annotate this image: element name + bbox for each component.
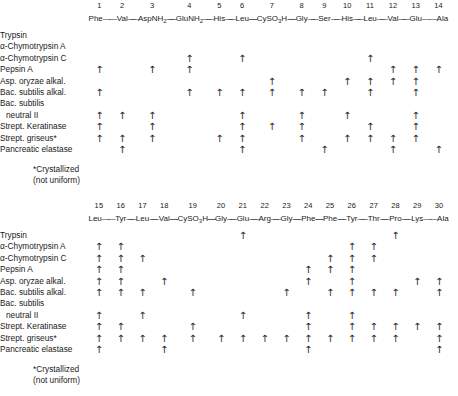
residue-label: —Glu— xyxy=(402,12,429,25)
cleavage-arrow: ↑ xyxy=(389,76,397,87)
enzyme-row: α-Chymotrypsin A↑↑↑↑ xyxy=(0,241,458,252)
residue-number: 20 xyxy=(217,200,226,212)
enzyme-row: Pancreatic elastase↑↑↑↑ xyxy=(0,344,458,355)
cleavage-arrow: ↑ xyxy=(326,333,334,344)
residue-label: Leu— xyxy=(88,212,109,225)
cleavage-arrow: ↑ xyxy=(348,321,356,332)
residue-number: 3 xyxy=(150,0,154,12)
sequence-panel-top: 1234567891011121314 Phe——Val——AspNH2——Gl… xyxy=(0,0,458,155)
enzyme-label: Pancreatic elastase xyxy=(0,344,72,355)
residue-sequence-row-top: Phe——Val——AspNH2——GluNH2——His——Leu——CySO… xyxy=(88,12,450,25)
cleavage-arrow-layer: ↑↑↑↑↑↑↑ xyxy=(88,110,450,121)
cleavage-arrow: ↑ xyxy=(412,121,420,132)
cleavage-arrow: ↑ xyxy=(260,333,268,344)
footnote-crystallized-top: *Crystallized xyxy=(33,164,79,175)
cleavage-arrow: ↑ xyxy=(297,87,305,98)
residue-number: 11 xyxy=(366,0,374,12)
cleavage-arrow: ↑ xyxy=(435,344,443,355)
cleavage-arrow: ↑ xyxy=(95,287,103,298)
cleavage-arrow: ↑ xyxy=(366,133,374,144)
residue-number: 4 xyxy=(187,0,191,12)
cleavage-arrow-layer: ↑↑↑↑↑ xyxy=(88,76,450,87)
residue-number: 29 xyxy=(413,200,422,212)
cleavage-arrow: ↑ xyxy=(391,287,399,298)
cleavage-arrow: ↑ xyxy=(304,276,312,287)
cleavage-arrow-layer: ↑↑↑↑↑ xyxy=(88,144,450,155)
residue-number: 7 xyxy=(270,0,274,12)
cleavage-arrow-layer xyxy=(88,98,450,109)
cleavage-arrow: ↑ xyxy=(348,310,356,321)
residue-number: 16 xyxy=(116,200,125,212)
residue-number-row-bottom: 15161718192021222324252627282930 xyxy=(88,200,450,212)
cleavage-arrow: ↑ xyxy=(435,333,443,344)
cleavage-arrow: ↑ xyxy=(304,344,312,355)
cleavage-arrow: ↑ xyxy=(138,287,146,298)
cleavage-arrow: ↑ xyxy=(297,121,305,132)
cleavage-arrow: ↑ xyxy=(95,276,103,287)
residue-number: 14 xyxy=(434,0,443,12)
cleavage-arrow-layer: ↑↑↑↑↑↑↑↑↑ xyxy=(88,321,450,332)
enzyme-label: Strept. griseus* xyxy=(0,333,57,344)
cleavage-arrow: ↑ xyxy=(160,333,168,344)
cleavage-arrow: ↑ xyxy=(343,76,351,87)
enzyme-row: neutral II↑↑↑↑↑↑↑ xyxy=(0,110,458,121)
cleavage-arrow: ↑ xyxy=(343,110,351,121)
cleavage-arrow: ↑ xyxy=(366,53,374,64)
enzyme-label: Strept. Keratinase xyxy=(0,321,66,332)
cleavage-arrow: ↑ xyxy=(148,64,156,75)
enzyme-rows-bottom: Trypsin↑↑α-Chymotrypsin A↑↑↑↑α-Chymotryp… xyxy=(0,230,458,355)
enzyme-row: Bac. subtilis alkal.↑↑↑↑↑↑↑↑↑↑ xyxy=(0,287,458,298)
cleavage-arrow: ↑ xyxy=(95,333,103,344)
enzyme-row: α-Chymotrypsin C↑↑↑↑↑↑ xyxy=(0,253,458,264)
cleavage-arrow-layer: ↑↑↑↑↑↑ xyxy=(88,253,450,264)
enzyme-row: Pancreatic elastase↑↑↑↑↑ xyxy=(0,144,458,155)
enzyme-label: α-Chymotrypsin A xyxy=(0,241,66,252)
footnote-not-uniform-top: (not uniform) xyxy=(33,175,80,186)
cleavage-arrow-layer: ↑↑↑↑↑↑↑↑↑↑ xyxy=(88,133,450,144)
cleavage-arrow: ↑ xyxy=(116,321,124,332)
residue-number: 5 xyxy=(217,0,221,12)
enzyme-label: neutral II xyxy=(6,110,38,121)
cleavage-arrow: ↑ xyxy=(95,241,103,252)
cleavage-arrow: ↑ xyxy=(366,121,374,132)
cleavage-arrow: ↑ xyxy=(389,133,397,144)
cleavage-arrow: ↑ xyxy=(148,110,156,121)
cleavage-arrow: ↑ xyxy=(239,333,247,344)
cleavage-arrow: ↑ xyxy=(297,133,305,144)
residue-number: 22 xyxy=(260,200,269,212)
cleavage-arrow: ↑ xyxy=(413,321,421,332)
cleavage-arrow: ↑ xyxy=(188,333,196,344)
cleavage-arrow-layer: ↑↑↑↑↑↑↑ xyxy=(88,276,450,287)
residue-number: 8 xyxy=(299,0,303,12)
cleavage-arrow: ↑ xyxy=(95,110,103,121)
cleavage-arrow: ↑ xyxy=(116,241,124,252)
cleavage-arrow: ↑ xyxy=(268,76,276,87)
enzyme-row: neutral II↑↑↑↑↑ xyxy=(0,310,458,321)
residue-label: —Ala xyxy=(429,12,448,25)
cleavage-arrow: ↑ xyxy=(95,264,103,275)
sequence-panel-bottom: 15161718192021222324252627282930 Leu——Ty… xyxy=(0,200,458,355)
cleavage-arrow: ↑ xyxy=(116,264,124,275)
cleavage-arrow: ↑ xyxy=(326,253,334,264)
cleavage-arrow: ↑ xyxy=(95,64,103,75)
cleavage-arrow: ↑ xyxy=(95,344,103,355)
cleavage-arrow: ↑ xyxy=(320,144,328,155)
cleavage-arrow: ↑ xyxy=(185,87,193,98)
cleavage-arrow: ↑ xyxy=(304,321,312,332)
cleavage-arrow: ↑ xyxy=(148,121,156,132)
cleavage-arrow: ↑ xyxy=(215,133,223,144)
residue-number: 18 xyxy=(160,200,169,212)
cleavage-arrow: ↑ xyxy=(238,133,246,144)
cleavage-arrow: ↑ xyxy=(95,310,103,321)
enzyme-label: α-Chymotrypsin A xyxy=(0,41,66,52)
cleavage-arrow-layer: ↑↑↑↑↑↑ xyxy=(88,64,450,75)
residue-label: Phe— xyxy=(89,12,111,25)
cleavage-arrow: ↑ xyxy=(369,241,377,252)
enzyme-row: Pepsin A↑↑↑↑↑↑ xyxy=(0,64,458,75)
residue-label: —Ala xyxy=(430,212,449,225)
cleavage-arrow: ↑ xyxy=(238,53,246,64)
cleavage-arrow-layer: ↑↑↑↑ xyxy=(88,344,450,355)
cleavage-arrow: ↑ xyxy=(239,230,247,241)
residue-number: 13 xyxy=(411,0,420,12)
cleavage-arrow-layer: ↑↑↑↑↑↑↑ xyxy=(88,121,450,132)
